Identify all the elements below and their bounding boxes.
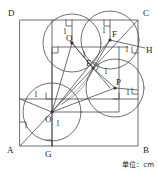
len-q-top: 1: [63, 27, 67, 36]
label-p: P: [116, 77, 121, 87]
label-f: F: [112, 29, 117, 39]
unit-caption: 单位：cm: [122, 159, 154, 169]
right-angle-p-right: [132, 88, 138, 94]
len-o-g: 1: [56, 119, 60, 128]
label-o: O: [45, 114, 52, 124]
len-f-h: 1: [125, 45, 129, 54]
label-d: D: [8, 8, 15, 18]
segment-e-f: [93, 40, 110, 68]
len-p-right: 1: [126, 88, 130, 97]
right-angle-o-inner: [46, 93, 52, 99]
segment-left-o: [20, 99, 52, 112]
label-b: B: [143, 145, 149, 155]
dot-e: [91, 66, 94, 69]
len-o-left: 1: [34, 90, 38, 99]
label-c: C: [143, 8, 149, 18]
label-a: A: [7, 145, 14, 155]
geometry-canvas: D C B A Q F P O E G H 1 1 1 1 1 1 1 1: [0, 0, 158, 171]
len-e-p: 1: [104, 67, 108, 76]
label-e: E: [86, 58, 92, 68]
label-q: Q: [66, 33, 73, 43]
right-angle-q-top: [66, 20, 72, 26]
right-angle-p-inner: [113, 93, 119, 99]
label-h: H: [146, 45, 153, 55]
right-angle-q-inner: [52, 47, 58, 53]
len-f-top: 1: [102, 26, 106, 35]
geometry-figure: D C B A Q F P O E G H 1 1 1 1 1 1 1 1 单位…: [0, 0, 158, 171]
label-g: G: [45, 149, 52, 159]
len-q-e: 1: [82, 50, 86, 59]
